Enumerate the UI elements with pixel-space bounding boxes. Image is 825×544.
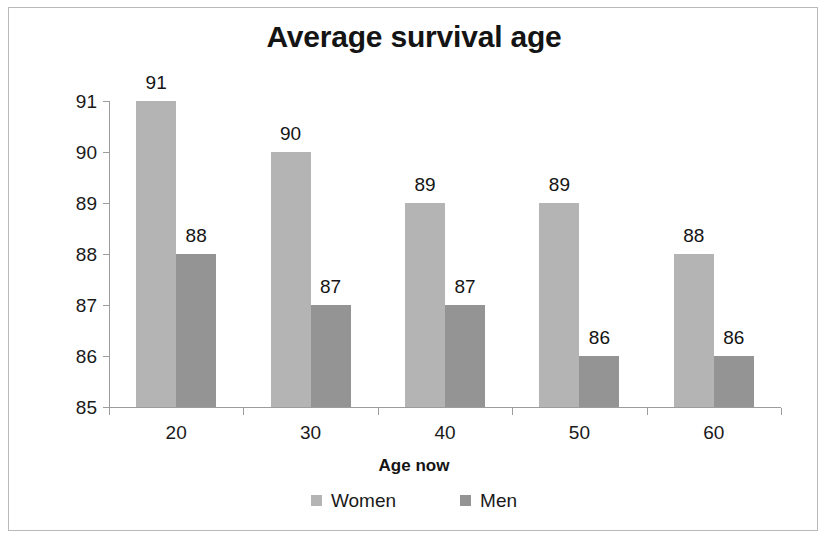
bar-value-label: 88 — [664, 226, 724, 245]
x-axis-line — [109, 407, 781, 408]
bar-value-label: 89 — [395, 175, 455, 194]
x-tick-label: 60 — [669, 422, 759, 444]
legend-swatch-icon — [460, 495, 471, 506]
y-tick-label: 89 — [54, 194, 97, 213]
bar-value-label: 91 — [126, 73, 186, 92]
bar-women-50 — [539, 203, 579, 407]
legend-label: Women — [331, 491, 396, 510]
bar-value-label: 86 — [704, 328, 764, 347]
y-tick-label: 86 — [54, 347, 97, 366]
x-tick-mark — [647, 408, 648, 415]
bar-value-label: 87 — [301, 277, 361, 296]
x-tick-mark — [243, 408, 244, 415]
y-tick-label: 90 — [54, 143, 97, 162]
bar-men-40 — [445, 305, 485, 407]
legend-item-men: Men — [460, 491, 517, 510]
bar-women-20 — [136, 101, 176, 407]
x-tick-label: 40 — [400, 422, 490, 444]
bar-value-label: 87 — [435, 277, 495, 296]
plot-area — [109, 101, 781, 407]
x-tick-mark — [781, 408, 782, 415]
chart-title: Average survival age — [9, 20, 819, 54]
chart-frame: Average survival age 85868788899091 2030… — [8, 7, 818, 531]
legend-label: Men — [480, 491, 517, 510]
bar-value-label: 88 — [166, 226, 226, 245]
x-axis-title: Age now — [9, 456, 819, 476]
x-tick-label: 20 — [131, 422, 221, 444]
bar-value-label: 89 — [529, 175, 589, 194]
bar-value-label: 86 — [569, 328, 629, 347]
y-tick-label: 85 — [54, 398, 97, 417]
x-tick-mark — [378, 408, 379, 415]
legend-item-women: Women — [311, 491, 396, 510]
bar-value-label: 90 — [261, 124, 321, 143]
chart-legend: WomenMen — [9, 491, 819, 510]
x-tick-label: 30 — [266, 422, 356, 444]
bar-men-60 — [714, 356, 754, 407]
legend-swatch-icon — [311, 495, 322, 506]
x-tick-mark — [109, 408, 110, 415]
y-tick-label: 88 — [54, 245, 97, 264]
x-tick-label: 50 — [534, 422, 624, 444]
x-tick-mark — [512, 408, 513, 415]
bar-women-40 — [405, 203, 445, 407]
bar-men-50 — [579, 356, 619, 407]
y-tick-label: 91 — [54, 92, 97, 111]
bar-men-30 — [311, 305, 351, 407]
y-tick-label: 87 — [54, 296, 97, 315]
bar-men-20 — [176, 254, 216, 407]
